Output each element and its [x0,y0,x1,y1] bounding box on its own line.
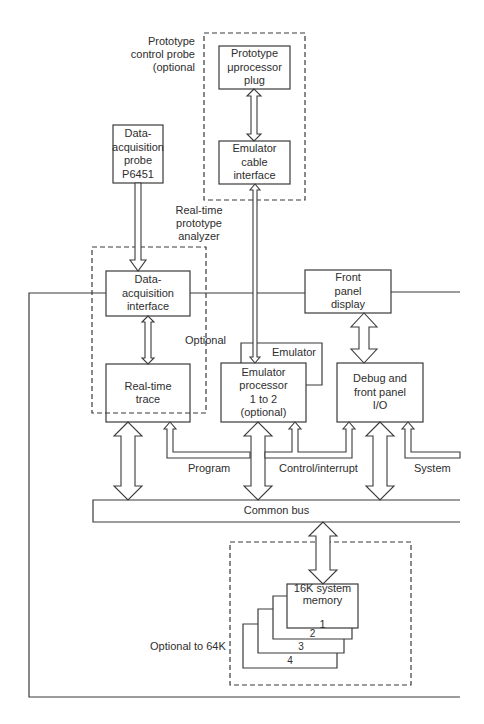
box-memory-3: 3 [258,640,344,653]
box-debug-front-panel-io: Debug and front panel I/O [337,363,423,422]
label-emulator: Emulator [272,346,316,359]
label-real-time-prototype-analyzer: Real-time prototype analyzer [160,204,238,243]
box-data-acquisition-interface: Data- acquisition interface [106,271,190,316]
label-optional-to-64k: Optional to 64K [150,640,226,653]
box-prototype-uprocessor-plug: Prototype μprocessor plug [219,46,290,89]
label-system: System [414,462,451,475]
box-common-bus: Common bus [93,500,460,522]
label-program: Program [188,462,230,475]
label-control-interrupt: Control/interrupt [279,462,358,475]
box-emulator-cable-interface: Emulator cable interface [219,141,290,184]
diagram-canvas [0,0,484,724]
box-memory-1: 16K system memory 1 [287,584,358,628]
box-front-panel-display: Front panel display [305,270,391,313]
box-memory-4: 4 [243,654,337,668]
label-prototype-control-probe: Prototype control probe (optional [100,35,195,74]
box-data-acquisition-probe: Data- acquisition probe P6451 [113,125,163,183]
box-emulator-processor: Emulator processor 1 to 2 (optional) [221,363,306,422]
box-memory-2: 2 [273,628,352,639]
label-optional: Optional [185,334,226,347]
box-real-time-trace: Real-time trace [106,364,190,422]
